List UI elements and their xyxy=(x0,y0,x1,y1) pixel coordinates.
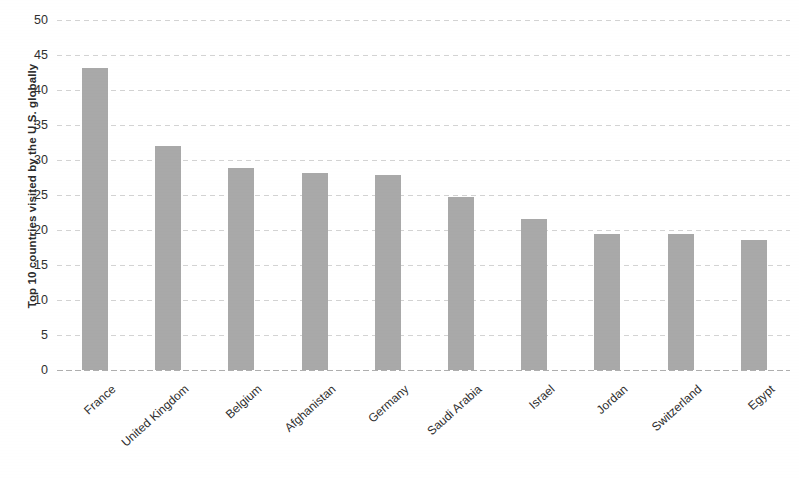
y-tick-label-5: 5 xyxy=(18,329,48,341)
bar xyxy=(594,234,620,371)
bar xyxy=(375,175,401,370)
y-tick-label-30: 30 xyxy=(18,154,48,166)
bar xyxy=(82,68,108,370)
gridline-0 xyxy=(57,370,790,371)
bar xyxy=(228,168,254,370)
y-tick-label-20: 20 xyxy=(18,224,48,236)
gridline-40 xyxy=(57,90,790,91)
y-tick-label-35: 35 xyxy=(18,119,48,131)
bar xyxy=(302,173,328,370)
y-tick-label-45: 45 xyxy=(18,49,48,61)
y-tick-label-50: 50 xyxy=(18,14,48,26)
gridline-50 xyxy=(57,20,790,21)
y-tick-label-10: 10 xyxy=(18,294,48,306)
bar xyxy=(448,197,474,370)
bar xyxy=(521,219,547,370)
y-tick-label-15: 15 xyxy=(18,259,48,271)
gridline-45 xyxy=(57,55,790,56)
gridline-35 xyxy=(57,125,790,126)
bar xyxy=(741,240,767,370)
y-tick-label-0: 0 xyxy=(18,364,48,376)
bar xyxy=(155,146,181,370)
bar-chart: Top 10 countries visited by the U.S. glo… xyxy=(0,0,799,478)
y-tick-label-25: 25 xyxy=(18,189,48,201)
y-tick-label-40: 40 xyxy=(18,84,48,96)
bar xyxy=(668,234,694,371)
